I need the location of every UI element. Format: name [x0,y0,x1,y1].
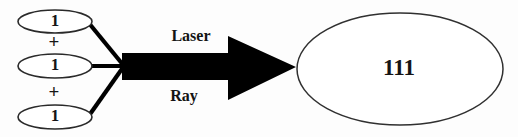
result-node: 111 [297,13,503,125]
result-label: 111 [383,55,415,80]
operand-node-2: 1 [18,54,92,78]
connector-group [88,22,124,117]
operand-label-2: 1 [51,55,60,74]
arrow-label-bottom: Ray [170,87,198,105]
connector-line-bottom [88,66,124,117]
operand-node-1: 1 [18,10,92,33]
operator-plus-1: + [49,31,60,52]
operator-plus-2: + [49,81,60,102]
diagram-svg: 1 + 1 + 1 Laser Ray 111 [0,0,518,137]
operand-node-3: 1 [18,105,92,129]
connector-line-top [88,22,124,66]
arrow-label-top: Laser [171,27,210,44]
operand-label-1: 1 [51,11,60,30]
laser-ray-arrow [122,36,296,100]
diagram-canvas: 1 + 1 + 1 Laser Ray 111 [0,0,518,137]
operand-label-3: 1 [51,106,60,125]
